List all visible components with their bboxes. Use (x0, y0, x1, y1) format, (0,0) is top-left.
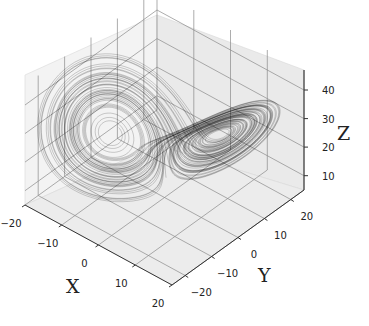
axes-panes (25, 15, 304, 285)
z-tick-label: 20 (322, 142, 335, 153)
z-axis-label: Z (337, 122, 350, 144)
y-tick (291, 200, 294, 202)
z-tick-label: 10 (322, 171, 335, 182)
y-tick-label: −10 (217, 268, 238, 279)
y-tick (264, 219, 267, 221)
x-tick (22, 205, 25, 207)
z-tick-label: 30 (322, 114, 335, 125)
y-tick-label: 0 (251, 249, 257, 260)
x-tick-label: 10 (115, 278, 128, 289)
x-tick (169, 285, 172, 287)
y-tick (238, 238, 241, 240)
x-tick (59, 225, 62, 227)
y-axis-label: Y (257, 264, 271, 286)
y-tick-label: 20 (300, 211, 313, 222)
lorenz-3d-plot: −20−1001020−20−100102010203040 X Y Z (0, 0, 369, 326)
y-tick-label: 10 (274, 230, 287, 241)
y-tick (212, 257, 215, 259)
x-tick-label: 20 (152, 298, 165, 309)
x-tick (132, 265, 135, 267)
x-axis-label: X (66, 275, 80, 297)
x-tick (96, 245, 99, 247)
y-tick-label: −20 (191, 287, 212, 298)
x-tick-label: 0 (81, 258, 87, 269)
x-tick-label: −20 (0, 218, 21, 229)
x-tick-label: −10 (37, 238, 58, 249)
z-tick-label: 40 (322, 85, 335, 96)
y-tick (185, 276, 188, 278)
